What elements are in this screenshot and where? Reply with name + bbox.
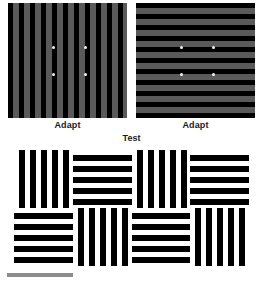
fixation-dot (212, 73, 215, 76)
test-cell (132, 208, 191, 266)
adapt-row: Adapt Adapt (0, 0, 263, 136)
test-cell (190, 208, 249, 266)
test-cell (73, 208, 132, 266)
scale-bar (7, 273, 73, 277)
test-cell (14, 150, 73, 208)
fixation-dot (52, 73, 55, 76)
fixation-dot (84, 46, 87, 49)
fixation-dot (212, 46, 215, 49)
test-cell (190, 150, 249, 208)
horizontal-grating-pattern (136, 3, 255, 118)
test-panel (14, 150, 249, 266)
fixation-dot (180, 73, 183, 76)
test-cell (73, 150, 132, 208)
test-cell (14, 208, 73, 266)
stimulus-figure: Adapt Adapt Test (0, 0, 263, 284)
adapt-panel-right (136, 3, 255, 118)
test-caption: Test (0, 133, 263, 144)
test-cell (132, 150, 191, 208)
adapt-panel-left (8, 3, 127, 118)
vertical-grating-pattern (8, 3, 127, 118)
adapt-right-caption: Adapt (136, 120, 255, 131)
adapt-left-caption: Adapt (8, 120, 127, 131)
fixation-dot (84, 73, 87, 76)
fixation-dot (180, 46, 183, 49)
fixation-dot (52, 46, 55, 49)
